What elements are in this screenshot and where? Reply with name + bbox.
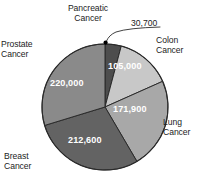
slice-value-colon: 105,000 <box>108 61 142 71</box>
slice-label-breast: Breast Cancer <box>4 152 56 171</box>
slice-label-colon: Colon Cancer <box>156 36 208 55</box>
pie-slice-group <box>42 44 168 170</box>
slice-label-pancreatic: Pancreatic Cancer <box>57 4 119 23</box>
slice-value-prostate: 220,000 <box>50 78 84 88</box>
slice-label-prostate: Prostate Cancer <box>1 40 57 59</box>
slice-value-lung: 171,900 <box>113 104 147 114</box>
slice-value-pancreatic: 30,700 <box>131 19 157 29</box>
callout-marker-dot <box>104 41 108 45</box>
slice-label-lung: Lung Cancer <box>163 118 211 137</box>
callout-leader-line <box>107 27 161 41</box>
slice-value-breast: 212,600 <box>68 135 102 145</box>
pie-chart: Pancreatic Cancer Colon Cancer Lung Canc… <box>0 0 212 188</box>
